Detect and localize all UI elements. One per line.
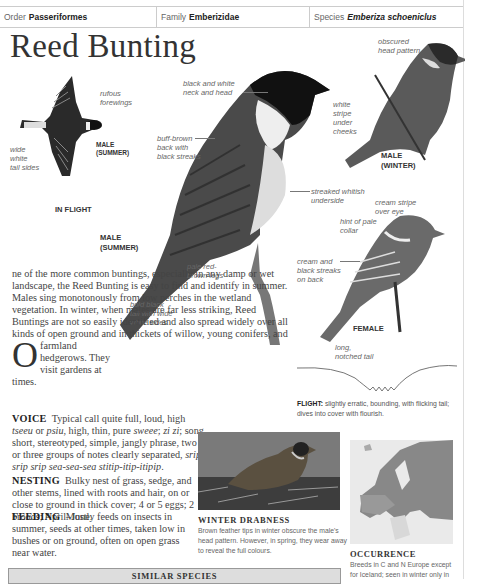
caption-in-flight: IN FLIGHT	[55, 205, 92, 215]
voice-section: VOICE Typical call quite full, loud, hig…	[12, 413, 207, 473]
species-label: Species	[314, 12, 344, 22]
occurrence-text: Breeds in C and N Europe except for Icel…	[350, 560, 460, 580]
taxonomy-bar: Order Passeriformes Family Emberizidae S…	[0, 6, 463, 28]
leader-line	[340, 261, 360, 262]
voice-label: VOICE	[12, 413, 47, 424]
photo-title: WINTER DRABNESS	[198, 515, 290, 525]
feeding-label: FEEDING	[12, 511, 61, 522]
occurrence-map	[350, 440, 453, 544]
label-streaked-whitish-underside: streaked whitish underside	[311, 187, 365, 205]
label-long-notched-tail: long, notched tail	[335, 343, 373, 361]
species-value: Emberiza schoeniclus	[347, 12, 436, 22]
label-obscured-head-pattern: obscured head pattern	[378, 37, 420, 55]
caption-male-winter: MALE (WINTER)	[381, 151, 416, 171]
label-cream-stripe-over-eye: cream stripe over eye	[375, 198, 416, 216]
label-cream-black-streaks-back: cream and black streaks on back	[297, 257, 341, 284]
flight-path-diagram	[295, 360, 460, 395]
leader-line	[243, 92, 268, 93]
order-label: Order	[4, 12, 26, 22]
caption-male-summer: MALE (SUMMER)	[100, 233, 138, 253]
photo-caption: Brown feather tips in winter obscure the…	[198, 526, 348, 556]
leader-line	[195, 138, 215, 139]
field-guide-page: Order Passeriformes Family Emberizidae S…	[0, 0, 464, 579]
species-cell: Species Emberiza schoeniclus	[310, 7, 463, 27]
drop-cap: O	[12, 341, 38, 369]
intro-text-narrow: O ne of the more common buntings, especi…	[12, 268, 294, 412]
family-value: Emberizidae	[189, 12, 239, 22]
occurrence-title: OCCURRENCE	[350, 549, 416, 559]
winter-drabness-photo	[198, 432, 340, 510]
feeding-section: FEEDING Mostly feeds on insects in summe…	[12, 511, 197, 559]
family-label: Family	[161, 12, 186, 22]
order-value: Passeriformes	[29, 12, 88, 22]
nesting-label: NESTING	[12, 475, 60, 486]
order-cell: Order Passeriformes	[0, 7, 157, 27]
label-wide-white-tail-sides: wide white tail sides	[10, 145, 39, 172]
flight-caption: FLIGHT: slightly erratic, bounding, with…	[297, 399, 463, 419]
caption-female: FEMALE	[353, 324, 384, 334]
similar-species-header: SIMILAR SPECIES	[8, 568, 341, 584]
leader-line	[290, 191, 310, 192]
label-hint-of-pale-collar: hint of pale collar	[340, 217, 377, 235]
family-cell: Family Emberizidae	[157, 7, 310, 27]
label-black-white-neck-head: black and white neck and head	[183, 79, 235, 97]
